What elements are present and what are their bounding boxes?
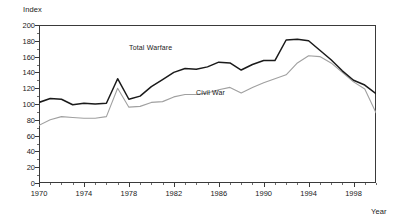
y-axis-tick-labels: 020406080100120140160180200	[14, 25, 35, 183]
x-tick-mark	[174, 183, 175, 187]
x-minor-tick-mark	[297, 183, 298, 185]
x-tick-label: 1970	[31, 189, 48, 198]
x-tick-label: 1986	[210, 189, 227, 198]
x-minor-tick-mark	[61, 183, 62, 185]
x-axis-title: Year	[371, 207, 387, 216]
x-minor-tick-mark	[320, 183, 321, 185]
x-minor-tick-mark	[230, 183, 231, 185]
plot-area	[39, 25, 376, 183]
x-tick-mark	[264, 183, 265, 187]
chart-container: Index 020406080100120140160180200 197019…	[0, 0, 404, 223]
x-minor-tick-mark	[73, 183, 74, 185]
x-minor-tick-mark	[376, 183, 377, 185]
series-lines	[39, 25, 376, 183]
x-tick-label: 1990	[255, 189, 272, 198]
x-minor-tick-mark	[208, 183, 209, 185]
x-minor-tick-mark	[151, 183, 152, 185]
x-minor-tick-mark	[241, 183, 242, 185]
series-label-civil-war: Civil War	[196, 89, 225, 96]
x-tick-label: 1994	[300, 189, 317, 198]
y-axis-title: Index	[23, 5, 42, 14]
x-tick-mark	[219, 183, 220, 187]
x-minor-tick-mark	[252, 183, 253, 185]
x-tick-label: 1974	[76, 189, 93, 198]
x-tick-mark	[354, 183, 355, 187]
x-minor-tick-mark	[286, 183, 287, 185]
x-minor-tick-mark	[275, 183, 276, 185]
x-tick-mark	[84, 183, 85, 187]
x-minor-tick-mark	[342, 183, 343, 185]
x-tick-label: 1978	[121, 189, 138, 198]
x-tick-mark	[129, 183, 130, 187]
x-minor-tick-mark	[95, 183, 96, 185]
x-minor-tick-mark	[106, 183, 107, 185]
x-tick-mark	[39, 183, 40, 187]
x-minor-tick-mark	[140, 183, 141, 185]
x-axis-tick-labels: 19701974197819821986199019941998	[39, 189, 376, 203]
series-label-total-warfare: Total Warfare	[129, 44, 172, 51]
x-tick-label: 1998	[345, 189, 362, 198]
x-minor-tick-mark	[185, 183, 186, 185]
x-minor-tick-mark	[118, 183, 119, 185]
x-tick-label: 1982	[165, 189, 182, 198]
x-minor-tick-mark	[163, 183, 164, 185]
x-minor-tick-mark	[196, 183, 197, 185]
x-minor-tick-mark	[50, 183, 51, 185]
x-tick-mark	[309, 183, 310, 187]
x-minor-tick-mark	[365, 183, 366, 185]
x-minor-tick-mark	[331, 183, 332, 185]
